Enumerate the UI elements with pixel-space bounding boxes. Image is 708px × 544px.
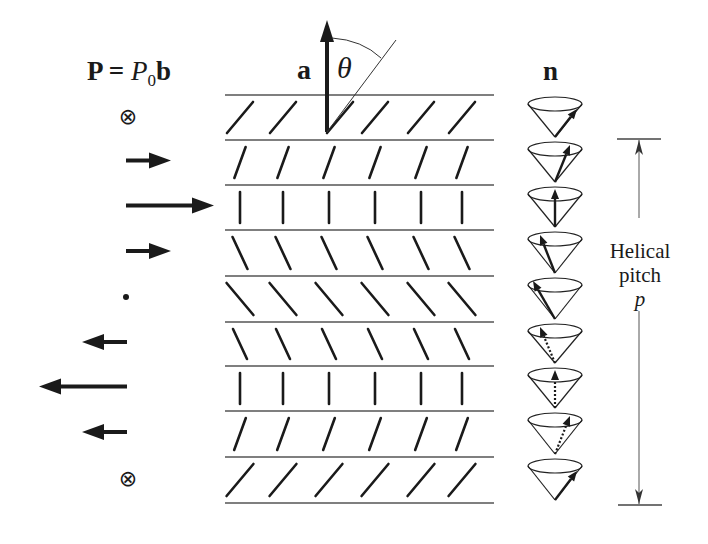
molecule: [449, 283, 476, 315]
angle-label-theta: θ: [337, 53, 352, 83]
director-cone: [528, 459, 582, 500]
molecule: [323, 147, 334, 178]
molecule: [233, 237, 248, 269]
director-cone: [528, 187, 582, 227]
molecule: [455, 237, 470, 269]
director-arrow: [544, 336, 555, 363]
arrowhead-icon: [82, 424, 104, 440]
molecule: [455, 329, 469, 359]
molecule: [277, 147, 288, 178]
arrowhead-icon: [39, 379, 61, 395]
helical-pitch-label: Helical pitch p: [600, 239, 680, 311]
director-arrow: [555, 117, 571, 137]
molecule: [316, 283, 343, 315]
director-cone: [528, 232, 582, 273]
arrowhead-icon: [149, 153, 171, 169]
axis-label-a: a: [297, 56, 311, 84]
molecule: [277, 418, 289, 450]
molecule: [415, 418, 427, 450]
molecule: [369, 147, 380, 178]
molecule: [316, 464, 343, 496]
molecule: [456, 418, 468, 450]
molecule: [362, 283, 389, 315]
molecule: [408, 283, 435, 315]
smectic-c-star-helix-diagram: ⊗⊗ P = P0b a θ n Helical pitch p: [0, 0, 708, 544]
molecule: [234, 147, 245, 178]
into-page-icon: ⊗: [119, 104, 137, 129]
molecules: [227, 102, 476, 496]
director-arrow: [555, 154, 566, 182]
arrowhead-icon: [82, 334, 104, 350]
smectic-layers: [225, 95, 494, 503]
molecule: [234, 418, 246, 450]
molecule: [368, 237, 383, 269]
director-cone: [528, 97, 582, 137]
polarization-equation: P = P0b: [87, 58, 171, 89]
molecule: [362, 102, 388, 133]
molecule: [449, 464, 476, 496]
into-page-icon: ⊗: [119, 466, 137, 491]
molecule: [456, 147, 467, 178]
pitch-symbol: p: [600, 287, 680, 311]
pitch-label-line2: pitch: [600, 263, 680, 287]
molecule: [227, 102, 253, 133]
out-of-page-dot-icon: [123, 294, 129, 300]
molecule: [327, 102, 353, 133]
pitch-dimension: [617, 139, 662, 505]
molecule: [362, 464, 389, 496]
molecule: [270, 102, 296, 133]
director-cone: [528, 413, 582, 454]
molecule: [322, 237, 337, 269]
director-cones: [528, 97, 582, 500]
arrowhead-icon: [320, 20, 334, 42]
layer-normal-a-arrow: [320, 20, 396, 132]
molecule: [408, 464, 435, 496]
polarization-arrows: ⊗⊗: [39, 104, 214, 492]
arrowhead-icon: [149, 243, 171, 259]
molecule: [276, 237, 291, 269]
molecule: [414, 237, 429, 269]
molecule: [368, 329, 382, 359]
director-cone: [528, 278, 582, 319]
director-arrow: [555, 425, 566, 454]
director-arrow: [555, 479, 571, 500]
director-arrow: [538, 290, 555, 319]
molecule: [233, 329, 247, 359]
arrowhead-icon: [192, 198, 214, 214]
molecule: [227, 283, 254, 315]
director-cone: [528, 324, 582, 363]
molecule: [276, 329, 290, 359]
molecule: [415, 147, 426, 178]
molecule: [369, 418, 381, 450]
director-label-n: n: [543, 58, 558, 85]
molecule: [408, 102, 434, 133]
director-cone: [528, 368, 582, 408]
molecule: [270, 283, 297, 315]
director-cone: [528, 142, 582, 182]
molecule: [227, 464, 254, 496]
molecule: [449, 102, 475, 133]
molecule: [270, 464, 297, 496]
molecule: [414, 329, 428, 359]
molecule: [323, 418, 335, 450]
director-arrow: [544, 244, 555, 273]
molecule: [322, 329, 336, 359]
pitch-label-line1: Helical: [600, 239, 680, 263]
